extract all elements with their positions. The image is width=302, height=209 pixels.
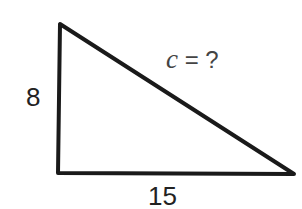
hypotenuse-label: c = ? <box>166 46 219 73</box>
triangle-diagram <box>0 0 302 209</box>
hypotenuse-variable: c <box>166 44 178 74</box>
vertical-leg-label: 8 <box>26 84 40 110</box>
hypotenuse-unknown: = ? <box>178 46 219 73</box>
horizontal-leg-label: 15 <box>148 183 177 209</box>
